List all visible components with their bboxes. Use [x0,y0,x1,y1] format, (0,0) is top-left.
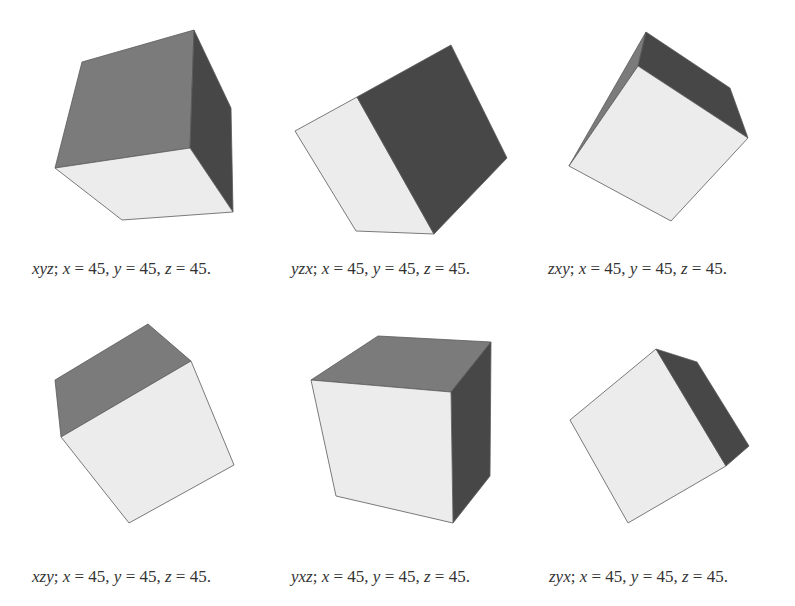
cube-yzx [295,45,507,234]
caption-xyz: xyz; x = 45, y = 45, z = 45. [32,259,211,279]
rotation-order-figure: xyz; x = 45, y = 45, z = 45. yzx; x = 45… [0,0,795,606]
cube-face-light [311,380,453,523]
cube-canvas [0,0,795,606]
rotation-order: zyx [549,567,571,586]
cube-zxy [569,32,748,221]
cube-xzy [55,324,234,523]
caption-xzy: xzy; x = 45, y = 45, z = 45. [32,567,211,587]
cube-face-mid [55,30,194,168]
rotation-order: yzx [291,259,313,278]
rotation-order: xzy [32,567,54,586]
caption-zxy: zxy; x = 45, y = 45, z = 45. [548,259,727,279]
rotation-order: zxy [548,259,570,278]
caption-yxz: yxz; x = 45, y = 45, z = 45. [291,567,470,587]
rotation-order: xyz [32,259,54,278]
cube-yxz [311,336,491,523]
cube-xyz [55,30,233,220]
cube-zyx [570,349,749,523]
rotation-order: yxz [291,567,313,586]
caption-yzx: yzx; x = 45, y = 45, z = 45. [291,259,470,279]
caption-zyx: zyx; x = 45, y = 45, z = 45. [549,567,728,587]
